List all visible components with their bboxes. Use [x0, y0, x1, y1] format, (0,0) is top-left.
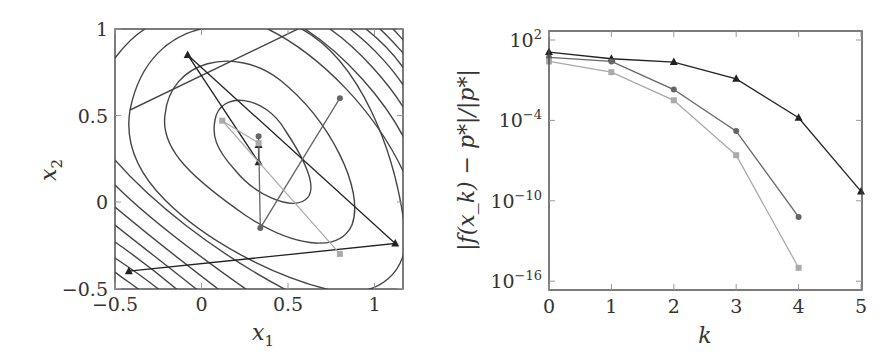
log-tick-label: 10−16 — [490, 268, 542, 292]
circle-marker — [608, 58, 614, 64]
y-tick-label: 0.5 — [78, 105, 108, 127]
k-tick-label: 4 — [793, 295, 805, 317]
y-tick-label: 1 — [96, 18, 108, 40]
square-marker — [733, 152, 739, 158]
log-tick-label: 10−4 — [499, 107, 542, 131]
triangle-path — [125, 50, 399, 274]
right-chart: 01234510210−410−1010−16 k |f(x_k) − p*|/… — [454, 27, 867, 348]
square-marker — [671, 97, 677, 103]
square-marker — [256, 140, 262, 146]
triangle-path-line — [129, 55, 395, 271]
x2-axis-label: x2 — [36, 159, 66, 181]
relative-error-axis-label: |f(x_k) − p*|/|p*| — [454, 69, 480, 251]
log-tick-label: 102 — [510, 27, 542, 51]
x-tick-label: 0.5 — [273, 293, 303, 315]
left-chart: −0.500.51−0.500.51 x1 x2 — [36, 18, 406, 350]
y-tick-label: −0.5 — [62, 278, 108, 300]
square-marker — [337, 251, 343, 257]
square-marker — [796, 265, 802, 271]
k-tick-label: 2 — [668, 295, 680, 317]
x1-axis-label: x1 — [252, 320, 274, 350]
circle-marker — [257, 225, 263, 231]
circle-marker — [733, 128, 739, 134]
circle-series-line — [549, 57, 799, 216]
svg-text:|f(x_k) − p*|/|p*|: |f(x_k) − p*|/|p*| — [454, 69, 480, 251]
circle-series — [546, 54, 802, 219]
square-marker — [608, 69, 614, 75]
k-tick-label: 5 — [855, 295, 867, 317]
log-tick-label: 10−10 — [490, 188, 542, 212]
x-tick-label: 1 — [368, 293, 380, 315]
right-axis-ticks: 01234510210−410−1010−16 — [490, 27, 867, 317]
k-tick-label: 1 — [605, 295, 617, 317]
k-axis-label: k — [698, 323, 711, 348]
circle-marker — [337, 95, 343, 101]
triangle-marker — [795, 113, 803, 121]
contour-lines — [115, 28, 406, 292]
circle-marker — [256, 133, 262, 139]
circle-marker — [796, 214, 802, 220]
circle-path — [256, 95, 343, 231]
k-tick-label: 0 — [543, 295, 555, 317]
triangle-marker — [184, 50, 192, 58]
circle-marker — [671, 87, 677, 93]
trajectory-paths — [125, 50, 399, 274]
convergence-series — [545, 48, 865, 271]
square-marker — [219, 118, 225, 124]
x-tick-label: 0 — [195, 293, 207, 315]
y-tick-label: 0 — [96, 191, 108, 213]
k-tick-label: 3 — [730, 295, 742, 317]
svg-text:x2: x2 — [36, 159, 66, 181]
figure-canvas: −0.500.51−0.500.51 x1 x2 01234510210−410… — [0, 0, 896, 360]
square-path — [219, 118, 343, 257]
triangle-series-line — [549, 52, 861, 191]
